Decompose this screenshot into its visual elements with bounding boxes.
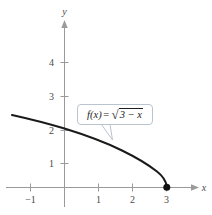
- y-tick-label-4: 4: [49, 57, 54, 68]
- x-tick-label-3: 3: [164, 194, 169, 205]
- y-tick-label-2: 2: [49, 125, 54, 136]
- x-tick-label-neg1: −1: [25, 194, 36, 205]
- curve-endpoint-dot: [163, 184, 170, 191]
- y-tick-label-3: 3: [49, 91, 54, 102]
- function-curve: [12, 115, 167, 187]
- x-axis-label: x: [201, 182, 207, 193]
- y-axis-arrow-icon: [61, 20, 67, 28]
- y-axis-label: y: [61, 6, 67, 17]
- x-tick-label-2: 2: [130, 194, 135, 205]
- x-axis-arrow-icon: [191, 184, 199, 190]
- callout-box: [78, 105, 153, 125]
- function-graph-figure: −1 1 2 3 1 2 3 4 y x f(x)=√3 − x: [0, 0, 212, 215]
- callout-tail: [102, 125, 113, 141]
- y-tick-label-1: 1: [49, 158, 54, 169]
- x-tick-label-1: 1: [96, 194, 101, 205]
- plot-area: −1 1 2 3 1 2 3 4 y x: [0, 0, 212, 215]
